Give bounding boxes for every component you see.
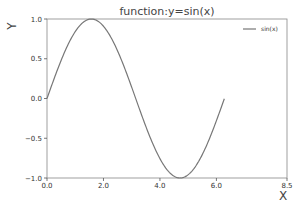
x-tick-label: 2.0 <box>98 182 109 190</box>
x-axis-label: X <box>279 189 287 203</box>
axes-frame <box>47 19 287 178</box>
y-tick-label: 0.5 <box>31 55 42 63</box>
y-tick-label: −1.0 <box>25 175 42 183</box>
y-axis-label: Y <box>5 22 19 31</box>
y-tick-label: 1.0 <box>31 16 42 24</box>
x-tick-label: 0.0 <box>41 182 52 190</box>
x-tick-label: 4.0 <box>154 182 165 190</box>
plot-axes: 0.02.04.06.08.5−1.0−0.50.00.51.0 <box>25 16 293 191</box>
chart-title: function:y=sin(x) <box>119 5 214 18</box>
y-tick-label: −0.5 <box>25 135 42 143</box>
x-tick-label: 8.5 <box>281 182 292 190</box>
legend: sin(x) <box>243 25 278 32</box>
sine-chart: function:y=sin(x) Y X 0.02.04.06.08.5−1.… <box>0 0 301 212</box>
legend-label: sin(x) <box>261 25 278 32</box>
y-tick-label: 0.0 <box>31 95 42 103</box>
x-tick-label: 6.0 <box>211 182 222 190</box>
sin-curve <box>47 19 224 178</box>
